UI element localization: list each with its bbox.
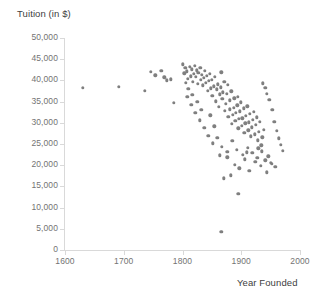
y-tick-label: 5,000 <box>36 223 58 233</box>
data-point <box>248 169 251 172</box>
data-point <box>218 154 221 157</box>
data-point <box>234 119 237 122</box>
data-point <box>208 113 211 116</box>
data-point <box>230 90 233 93</box>
data-point <box>211 141 214 144</box>
y-tick-label: 50,000 <box>31 32 58 42</box>
data-point <box>250 126 253 129</box>
data-point <box>154 74 157 77</box>
data-point <box>221 97 224 100</box>
data-point <box>117 85 120 88</box>
x-tick-label: 2000 <box>290 256 309 266</box>
y-tick-label: 0 <box>53 244 58 254</box>
data-point <box>253 133 256 136</box>
y-tick-label: 15,000 <box>31 180 58 190</box>
data-point <box>224 102 227 105</box>
data-point <box>200 108 203 111</box>
data-point <box>213 75 216 78</box>
y-tick-mark <box>60 80 64 81</box>
data-point <box>225 155 228 158</box>
data-point <box>195 100 198 103</box>
data-point <box>267 155 270 158</box>
y-tick-mark <box>60 59 64 60</box>
y-tick-label: 10,000 <box>31 202 58 212</box>
data-point <box>255 116 258 119</box>
y-tick-mark <box>60 186 64 187</box>
data-point <box>240 124 243 127</box>
y-tick-label: 35,000 <box>31 96 58 106</box>
data-point <box>274 165 277 168</box>
data-point <box>261 136 264 139</box>
data-point <box>262 128 265 131</box>
data-point <box>231 139 234 142</box>
data-point <box>228 108 231 111</box>
y-tick-mark <box>60 123 64 124</box>
data-point <box>211 94 214 97</box>
data-point <box>237 127 240 130</box>
data-point <box>248 112 251 115</box>
data-point <box>235 104 238 107</box>
data-point <box>191 93 194 96</box>
data-point <box>237 192 240 195</box>
data-point <box>245 105 248 108</box>
y-tick-label: 30,000 <box>31 117 58 127</box>
data-point <box>251 118 254 121</box>
x-tick-label: 1700 <box>114 256 133 266</box>
data-point <box>242 107 245 110</box>
y-tick-label: 45,000 <box>31 53 58 63</box>
data-point <box>227 115 230 118</box>
data-point <box>251 151 254 154</box>
data-point <box>241 153 244 156</box>
x-tick-mark <box>300 251 301 255</box>
data-point <box>233 163 236 166</box>
data-point <box>194 111 197 114</box>
data-point <box>196 82 199 85</box>
data-point <box>246 146 249 149</box>
data-point <box>203 126 206 129</box>
x-tick-label: 1900 <box>232 256 251 266</box>
data-point <box>272 120 275 123</box>
data-point <box>255 156 258 159</box>
data-point <box>242 131 245 134</box>
data-point <box>213 124 216 127</box>
data-point <box>186 77 189 80</box>
data-point <box>201 84 204 87</box>
data-point <box>215 88 218 91</box>
data-point <box>220 230 223 233</box>
data-point <box>219 85 222 88</box>
data-point <box>191 80 194 83</box>
data-point <box>185 70 188 73</box>
data-point <box>194 75 197 78</box>
data-point <box>193 64 196 67</box>
data-point <box>259 164 262 167</box>
data-point <box>184 81 187 84</box>
data-point <box>252 110 255 113</box>
data-point <box>172 101 175 104</box>
y-tick-mark <box>60 38 64 39</box>
data-point <box>277 137 280 140</box>
data-point <box>230 122 233 125</box>
data-point <box>281 149 284 152</box>
data-point <box>249 135 252 138</box>
data-point <box>218 93 221 96</box>
data-point <box>236 95 239 98</box>
data-point <box>226 83 229 86</box>
data-point <box>228 99 231 102</box>
data-point <box>143 89 146 92</box>
data-point <box>239 101 242 104</box>
data-point <box>268 98 271 101</box>
y-tick-mark <box>60 165 64 166</box>
data-point <box>260 144 263 147</box>
data-point <box>275 129 278 132</box>
data-point <box>260 150 263 153</box>
data-point <box>223 80 226 83</box>
y-tick-label: 25,000 <box>31 138 58 148</box>
data-point <box>241 116 244 119</box>
data-point <box>215 136 218 139</box>
x-tick-mark <box>241 251 242 255</box>
y-tick-mark <box>60 144 64 145</box>
x-tick-label: 1800 <box>173 256 192 266</box>
data-point <box>234 111 237 114</box>
y-tick-mark <box>60 229 64 230</box>
x-tick-mark <box>124 251 125 255</box>
